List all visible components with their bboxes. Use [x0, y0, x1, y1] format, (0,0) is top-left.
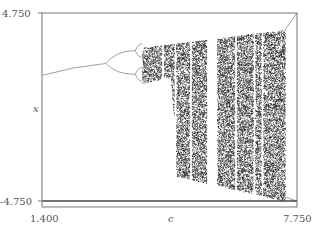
y-axis-label: x — [33, 104, 39, 114]
x-tick-label-min: 1.400 — [30, 214, 59, 224]
scatter-points — [142, 30, 285, 201]
plot-frame — [42, 13, 297, 207]
y-tick-label-max: 4.750 — [2, 9, 31, 19]
y-tick-label-min: -4.750 — [0, 197, 32, 207]
x-axis-label: c — [168, 214, 174, 224]
bifurcation-plot — [0, 0, 316, 238]
x-tick-label-max: 7.750 — [283, 214, 312, 224]
